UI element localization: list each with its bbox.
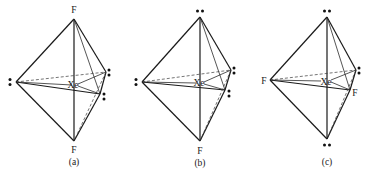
atom-label-left: F bbox=[261, 76, 266, 86]
atom-label-bottom: F bbox=[71, 145, 76, 155]
atom-label-right-front: F bbox=[352, 88, 357, 98]
panel-caption: (c) bbox=[322, 157, 333, 168]
lone-pair-icon bbox=[323, 10, 331, 13]
atom-label-top: F bbox=[71, 5, 76, 15]
atom-label-bottom: F bbox=[197, 146, 202, 156]
xef2-geometry-figure: F F Xe (a) F Xe (b) bbox=[0, 0, 369, 177]
lone-pair-icon bbox=[233, 67, 236, 75]
lone-pair-icon bbox=[358, 67, 361, 75]
panel-a: F F Xe (a) bbox=[9, 5, 111, 168]
lone-pair-icon bbox=[9, 78, 12, 86]
central-atom-label: Xe bbox=[320, 77, 331, 87]
lone-pair-icon bbox=[196, 10, 204, 13]
lone-pair-icon bbox=[135, 78, 138, 86]
central-atom-label: Xe bbox=[67, 80, 78, 90]
central-atom-label: Xe bbox=[193, 78, 204, 88]
panel-caption: (a) bbox=[69, 157, 80, 168]
panel-b: F Xe (b) bbox=[135, 10, 236, 170]
lone-pair-icon bbox=[323, 144, 331, 147]
lone-pair-icon bbox=[228, 90, 231, 98]
panel-caption: (b) bbox=[194, 158, 205, 169]
panel-c: F F Xe (c) bbox=[261, 10, 360, 169]
lone-pair-icon bbox=[108, 69, 111, 77]
lone-pair-icon bbox=[103, 93, 106, 101]
